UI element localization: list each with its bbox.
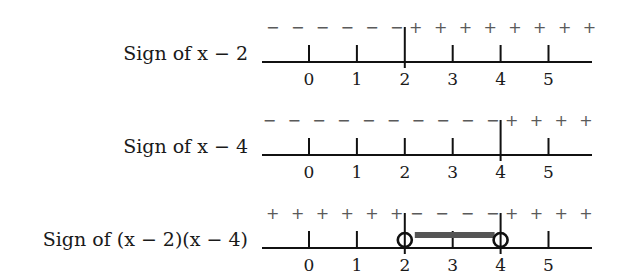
minus-sign: −: [461, 204, 474, 223]
minus-sign: −: [387, 111, 400, 130]
plus-sign: +: [533, 18, 546, 37]
tick-label: 0: [304, 162, 315, 182]
row-label: Sign of x − 2: [123, 42, 248, 64]
row-label: Sign of x − 4: [123, 135, 248, 157]
minus-sign: −: [263, 111, 276, 130]
minus-sign: −: [436, 111, 449, 130]
tick-label: 4: [495, 69, 506, 89]
plus-sign: +: [554, 111, 567, 130]
minus-sign: −: [266, 18, 279, 37]
tick-label: 2: [399, 69, 410, 89]
plus-sign: +: [530, 204, 543, 223]
minus-sign: −: [362, 111, 375, 130]
tick-label: 4: [495, 255, 506, 275]
tick-label: 5: [543, 162, 554, 182]
tick-label: 1: [351, 69, 362, 89]
tick-label: 5: [543, 255, 554, 275]
tick-label: 0: [304, 69, 315, 89]
minus-sign: −: [337, 111, 350, 130]
tick-label: 2: [399, 162, 410, 182]
plus-sign: +: [266, 204, 279, 223]
plus-sign: +: [434, 18, 447, 37]
tick-label: 1: [351, 162, 362, 182]
plus-sign: +: [554, 204, 567, 223]
minus-sign: −: [365, 18, 378, 37]
plus-sign: +: [459, 18, 472, 37]
plus-sign: +: [505, 111, 518, 130]
plus-sign: +: [291, 204, 304, 223]
tick-label: 3: [447, 255, 458, 275]
minus-sign: −: [390, 18, 403, 37]
minus-sign: −: [340, 18, 353, 37]
minus-sign: −: [461, 111, 474, 130]
plus-sign: +: [365, 204, 378, 223]
plus-sign: +: [316, 204, 329, 223]
tick-label: 3: [447, 162, 458, 182]
minus-sign: −: [287, 111, 300, 130]
sign-chart: Sign of x − 2012345−−−−−−++++++++Sign of…: [0, 0, 620, 279]
tick-label: 2: [399, 255, 410, 275]
tick-label: 5: [543, 69, 554, 89]
plus-sign: +: [508, 18, 521, 37]
tick-label: 1: [351, 255, 362, 275]
plus-sign: +: [483, 18, 496, 37]
minus-sign: −: [410, 204, 423, 223]
plus-sign: +: [579, 111, 592, 130]
plus-sign: +: [505, 204, 518, 223]
row-label: Sign of (x − 2)(x − 4): [43, 228, 248, 250]
tick-label: 4: [495, 162, 506, 182]
minus-sign: −: [486, 204, 499, 223]
minus-sign: −: [435, 204, 448, 223]
minus-sign: −: [312, 111, 325, 130]
plus-sign: +: [583, 18, 596, 37]
plus-sign: +: [558, 18, 571, 37]
plus-sign: +: [409, 18, 422, 37]
minus-sign: −: [411, 111, 424, 130]
plus-sign: +: [579, 204, 592, 223]
plus-sign: +: [530, 111, 543, 130]
minus-sign: −: [316, 18, 329, 37]
plus-sign: +: [340, 204, 353, 223]
tick-label: 0: [304, 255, 315, 275]
minus-sign: −: [486, 111, 499, 130]
plus-sign: +: [390, 204, 403, 223]
tick-label: 3: [447, 69, 458, 89]
minus-sign: −: [291, 18, 304, 37]
